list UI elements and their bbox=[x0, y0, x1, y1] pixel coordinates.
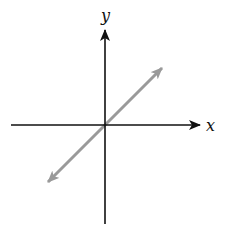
y-axis-label: y bbox=[100, 6, 111, 25]
coordinate-plane-diagram: y x bbox=[0, 0, 235, 227]
x-axis-label: x bbox=[206, 116, 215, 135]
